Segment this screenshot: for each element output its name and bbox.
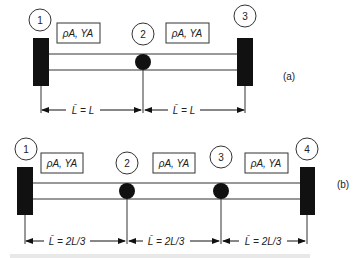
fixed-support-left xyxy=(17,167,33,215)
panel-label: (a) xyxy=(283,71,295,82)
dimension-label: L̄ = L xyxy=(173,104,196,116)
panel-b xyxy=(15,138,318,244)
fixed-support-right xyxy=(237,38,253,86)
property-label: ρA, YA xyxy=(62,28,94,39)
node-label: 4 xyxy=(304,144,310,155)
node-label: 2 xyxy=(124,158,130,169)
mass-node-2 xyxy=(119,183,135,199)
property-label: ρA, YA xyxy=(250,158,282,169)
node-label: 3 xyxy=(218,152,224,163)
dimension-label: L̄ = 2L/3 xyxy=(148,235,185,247)
property-label: ρA, YA xyxy=(171,28,203,39)
dimension-label: L̄ = 2L/3 xyxy=(49,235,86,247)
node-label: 2 xyxy=(140,29,146,40)
mass-node-3 xyxy=(213,183,229,199)
node-label: 1 xyxy=(23,144,29,155)
fixed-support-right xyxy=(300,167,315,215)
spring-mass-diagram: 1 2 3 ρA, YA ρA, YA L̄ = L L̄ = L (a) 1 … xyxy=(0,0,359,258)
dimension-label: L̄ = L xyxy=(72,104,95,116)
property-label: ρA, YA xyxy=(158,158,190,169)
node-label: 1 xyxy=(37,15,43,26)
dimension-label: L̄ = 2L/3 xyxy=(245,235,282,247)
fixed-support-left xyxy=(33,38,49,86)
panel-label: (b) xyxy=(337,179,349,190)
panel-a xyxy=(29,5,256,113)
mass-node-2 xyxy=(135,54,151,70)
node-label: 3 xyxy=(242,11,248,22)
property-label: ρA, YA xyxy=(46,158,78,169)
